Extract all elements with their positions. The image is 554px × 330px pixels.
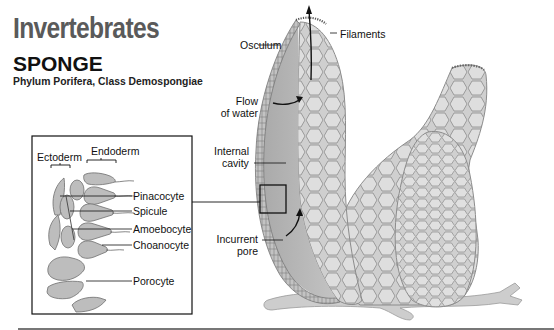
label-osculum: Osculum xyxy=(240,39,281,51)
label-porocyte: Porocyte xyxy=(133,275,174,287)
label-incurrent-line1: Incurrent xyxy=(200,233,258,245)
label-endoderm: Endoderm xyxy=(91,145,139,157)
label-filaments: Filaments xyxy=(340,28,386,40)
label-choanocyte: Choanocyte xyxy=(133,239,189,251)
label-internal-line1: Internal xyxy=(214,145,249,157)
label-flow-line2: of water xyxy=(200,107,258,119)
label-pinacocyte: Pinacocyte xyxy=(133,190,184,202)
label-internal-line2: cavity xyxy=(222,157,249,169)
label-flow-line1: Flow xyxy=(200,95,258,107)
label-incurrent-line2: pore xyxy=(200,245,258,257)
label-ectoderm: Ectoderm xyxy=(37,151,82,163)
label-amoebocyte: Amoebocyte xyxy=(133,223,191,235)
label-spicule: Spicule xyxy=(133,205,167,217)
